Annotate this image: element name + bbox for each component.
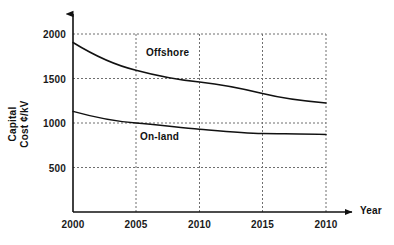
y-axis-title-line-1: Capital <box>7 100 19 147</box>
chart-figure: 2000 1500 1000 500 2000 2005 2010 2015 2… <box>0 0 394 245</box>
y-axis-title: Capital Cost ¢/kV <box>4 84 34 164</box>
y-tick-label-2000: 2000 <box>28 29 66 40</box>
y-axis-title-line-2: Cost ¢/kV <box>19 100 31 147</box>
x-tick-label-2: 2005 <box>124 219 147 230</box>
series-label-on-land: On-land <box>140 131 179 142</box>
x-tick-label-4: 2015 <box>251 219 274 230</box>
x-tick-label-1: 2000 <box>61 219 84 230</box>
y-tick-label-1500: 1500 <box>28 73 66 84</box>
series-label-offshore: Offshore <box>146 47 189 58</box>
x-axis-title: Year <box>360 205 382 216</box>
x-tick-label-3: 2010 <box>188 219 211 230</box>
x-tick-label-5: 2010 <box>314 219 337 230</box>
